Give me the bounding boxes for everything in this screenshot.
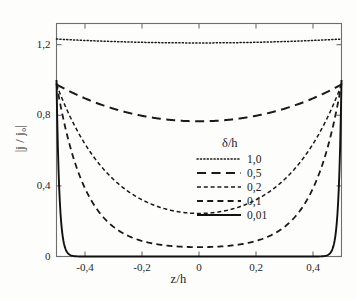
x-tick-label: -0,2 — [122, 261, 162, 273]
legend-entry-list: 1,00,50,20,10,01 — [196, 152, 267, 222]
x-tick-label: 0,4 — [293, 261, 333, 273]
plot-canvas — [0, 0, 357, 300]
legend-entry-label: 0,2 — [242, 181, 261, 193]
legend-entry-label: 1,0 — [242, 153, 261, 165]
y-axis-title: |j / j₀| — [13, 89, 28, 189]
legend-entry: 0,1 — [196, 194, 267, 208]
legend-entry: 1,0 — [196, 152, 267, 166]
x-tick-label: 0,2 — [236, 261, 276, 273]
y-tick-label: 0,8 — [11, 108, 51, 120]
legend: δ/h 1,00,50,20,10,01 — [196, 136, 267, 222]
legend-line-sample-1-0 — [196, 153, 242, 165]
y-tick-label: 0 — [11, 250, 51, 262]
curve-0-5 — [57, 84, 342, 121]
legend-line-sample-0-1 — [196, 195, 242, 207]
y-tick-label: 0,4 — [11, 179, 51, 191]
legend-entry: 0,01 — [196, 208, 267, 222]
legend-entry: 0,2 — [196, 180, 267, 194]
current-density-profile-figure: z/h |j / j₀| -0,4-0,200,20,4 00,40,81,2 … — [0, 0, 357, 300]
curve-1-0 — [57, 39, 342, 43]
legend-line-sample-0-2 — [196, 181, 242, 193]
legend-line-sample-0-5 — [196, 167, 242, 179]
x-tick-label: 0 — [179, 261, 219, 273]
legend-entry-label: 0,01 — [242, 209, 267, 221]
y-tick-label: 1,2 — [11, 38, 51, 50]
legend-entry: 0,5 — [196, 166, 267, 180]
legend-line-sample-0-01 — [196, 209, 242, 221]
legend-entry-label: 0,5 — [242, 167, 261, 179]
x-tick-label: -0,4 — [65, 261, 105, 273]
legend-entry-label: 0,1 — [242, 195, 261, 207]
x-axis-title: z/h — [0, 272, 357, 287]
legend-title: δ/h — [196, 136, 267, 151]
